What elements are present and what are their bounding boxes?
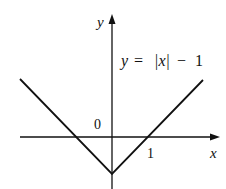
equation-label: y = |x| − 1 bbox=[119, 52, 203, 70]
graph-figure: y x 0 1 y = |x| − 1 bbox=[0, 0, 226, 189]
graph-canvas: y x 0 1 y = |x| − 1 bbox=[0, 0, 226, 189]
x-axis-arrow-icon bbox=[210, 134, 220, 141]
equation-abs-x: |x| bbox=[154, 52, 170, 70]
y-axis-label: y bbox=[95, 14, 104, 30]
x-axis-label: x bbox=[209, 145, 217, 161]
equation-y: y bbox=[119, 52, 129, 70]
equation-equals: = bbox=[134, 52, 143, 69]
y-axis-arrow-icon bbox=[109, 14, 116, 24]
equation-one: 1 bbox=[195, 52, 203, 69]
x-tick-label-1: 1 bbox=[147, 146, 154, 161]
equation-minus: − bbox=[177, 52, 186, 69]
origin-label: 0 bbox=[94, 117, 101, 132]
